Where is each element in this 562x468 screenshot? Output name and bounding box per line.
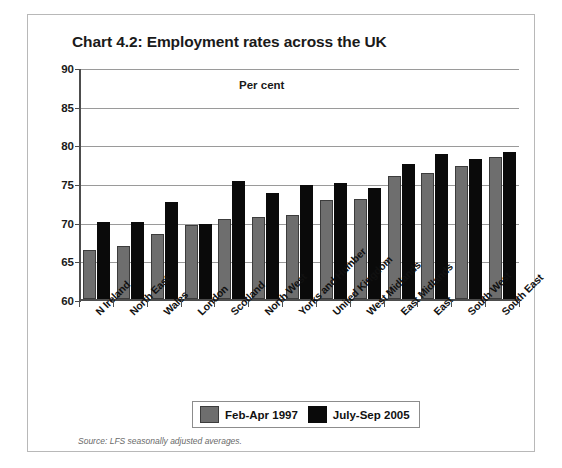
x-tick-mark xyxy=(485,301,486,307)
y-tick-label: 75 xyxy=(61,179,74,191)
legend-swatch-2005 xyxy=(308,406,327,423)
x-tick-mark xyxy=(282,301,283,307)
bar-group xyxy=(284,69,318,299)
bar-group xyxy=(149,69,183,299)
x-tick-mark xyxy=(214,301,215,307)
x-tick-mark xyxy=(384,301,385,307)
chart-title: Chart 4.2: Employment rates across the U… xyxy=(72,33,387,51)
bar-group xyxy=(250,69,284,299)
x-tick-mark xyxy=(316,301,317,307)
legend-label-2005: July-Sep 2005 xyxy=(333,409,410,421)
bar-2005 xyxy=(97,222,110,299)
y-tick-label: 65 xyxy=(61,256,74,268)
bar-1997 xyxy=(455,166,468,299)
bar-2005 xyxy=(232,181,245,299)
x-tick-mark xyxy=(79,301,80,307)
source-note: Source: LFS seasonally adjusted averages… xyxy=(78,436,242,446)
legend-item-2005: July-Sep 2005 xyxy=(308,406,410,423)
bar-group xyxy=(487,69,521,299)
legend-label-1997: Feb-Apr 1997 xyxy=(225,409,298,421)
chart-legend: Feb-Apr 1997 July-Sep 2005 xyxy=(192,401,420,428)
chart-page: Chart 4.2: Employment rates across the U… xyxy=(0,0,562,468)
y-tick-label: 70 xyxy=(61,218,74,230)
bar-group xyxy=(81,69,115,299)
legend-swatch-1997 xyxy=(200,406,219,423)
y-tick-mark xyxy=(75,301,81,302)
x-tick-mark xyxy=(248,301,249,307)
bar-group xyxy=(216,69,250,299)
bar-1997 xyxy=(185,225,198,299)
x-tick-mark xyxy=(451,301,452,307)
bar-2005 xyxy=(131,222,144,299)
x-tick-mark xyxy=(181,301,182,307)
x-tick-mark xyxy=(417,301,418,307)
bar-group xyxy=(183,69,217,299)
bar-group xyxy=(115,69,149,299)
legend-item-1997: Feb-Apr 1997 xyxy=(200,406,298,423)
x-tick-mark xyxy=(519,301,520,307)
bar-1997 xyxy=(83,250,96,299)
x-tick-mark xyxy=(113,301,114,307)
bar-2005 xyxy=(469,159,482,299)
x-tick-mark xyxy=(147,301,148,307)
chart-panel: Chart 4.2: Employment rates across the U… xyxy=(27,14,535,452)
bar-2005 xyxy=(266,193,279,299)
y-tick-label: 80 xyxy=(61,140,74,152)
y-tick-label: 85 xyxy=(61,102,74,114)
bar-2005 xyxy=(199,224,212,299)
y-tick-label: 90 xyxy=(61,63,74,75)
plot-area: Per cent 60657075808590 N IrelandNorth E… xyxy=(79,69,519,316)
bar-group xyxy=(453,69,487,299)
y-tick-label: 60 xyxy=(61,295,74,307)
x-tick-mark xyxy=(350,301,351,307)
